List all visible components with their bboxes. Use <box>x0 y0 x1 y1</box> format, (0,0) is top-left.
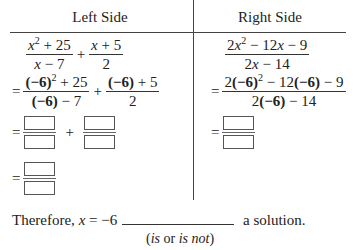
left-simplified-step: = + <box>12 116 116 149</box>
left-substituted-expression: = (−6)2 + 25 (−6) − 7 + (−6) + 5 2 <box>12 74 159 109</box>
fraction-input-pair-right <box>222 116 255 149</box>
left-original-expression: x2 + 25 x − 7 + x + 5 2 <box>26 37 123 72</box>
fraction-right: 2x2 − 12x − 9 2x − 14 <box>225 37 309 72</box>
right-simplified-step: = <box>211 116 255 149</box>
denominator-input-1[interactable] <box>24 135 55 149</box>
numerator-input-3[interactable] <box>24 162 55 176</box>
fraction-term2-substituted: (−6) + 5 2 <box>106 74 160 109</box>
fraction-input-pair-3 <box>23 162 56 195</box>
left-side-header: Left Side <box>60 9 140 26</box>
answer-blank-input[interactable] <box>122 210 234 225</box>
denominator-input-right[interactable] <box>223 135 254 149</box>
fraction-term1: x2 + 25 x − 7 <box>26 37 73 72</box>
denominator-input-3[interactable] <box>24 181 55 195</box>
fraction-input-pair-2 <box>83 116 116 149</box>
numerator-input-right[interactable] <box>223 116 254 130</box>
table-column-divider <box>193 0 194 200</box>
right-original-expression: 2x2 − 12x − 9 2x − 14 <box>225 37 309 72</box>
conclusion-sentence: Therefore, x = −6 a solution. <box>12 210 305 229</box>
right-side-header: Right Side <box>225 9 315 26</box>
table-header-divider <box>10 32 346 33</box>
fraction-input-pair-1 <box>23 116 56 149</box>
fraction-term1-substituted: (−6)2 + 25 (−6) − 7 <box>23 74 89 109</box>
denominator-input-2[interactable] <box>84 135 115 149</box>
fraction-term2: x + 5 2 <box>89 37 123 72</box>
fraction-right-substituted: 2(−6)2 − 12(−6) − 9 2(−6) − 14 <box>222 74 345 109</box>
numerator-input-2[interactable] <box>84 116 115 130</box>
answer-hint: (is or is not) <box>146 231 214 247</box>
numerator-input-1[interactable] <box>24 116 55 130</box>
left-final-step: = <box>12 162 56 195</box>
right-substituted-expression: = 2(−6)2 − 12(−6) − 9 2(−6) − 14 <box>211 74 346 109</box>
